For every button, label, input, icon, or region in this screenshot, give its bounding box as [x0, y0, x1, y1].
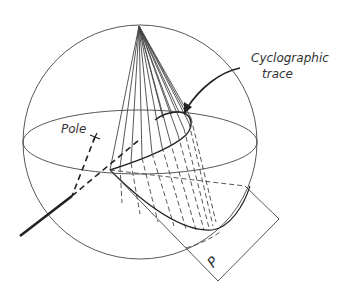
- cyclographic-label-line1: Cyclographic: [251, 51, 329, 65]
- cyclographic-label-line2: trace: [262, 67, 293, 81]
- pole-marker-icon: [90, 133, 100, 141]
- cone-generators: [110, 26, 191, 170]
- equatorial-ellipse-back: [23, 110, 257, 142]
- pole-label: Pole: [61, 122, 86, 136]
- plane-p-hidden-edge: [186, 232, 220, 248]
- cyclographic-arrow: [187, 68, 240, 108]
- pole-axis-outer: [20, 196, 72, 236]
- equatorial-ellipse-front: [23, 142, 257, 174]
- stereographic-diagram: Pole Cyclographic trace P: [0, 0, 349, 297]
- plane-label: P: [204, 253, 222, 271]
- cone-plane-intersection: [110, 170, 250, 230]
